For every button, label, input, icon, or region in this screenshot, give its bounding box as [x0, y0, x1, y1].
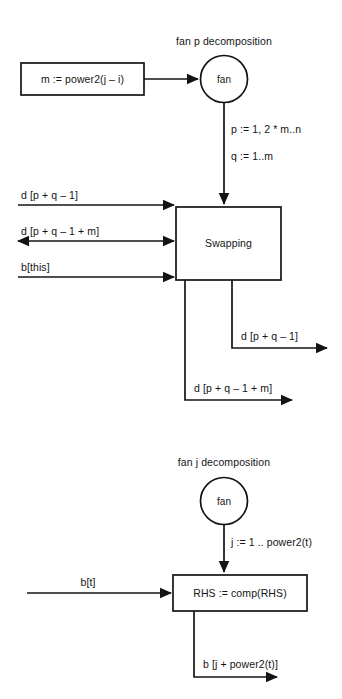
edge-label-input-d-pq1: d [p + q – 1]: [21, 190, 78, 201]
edge-label-input-d-pq1m: d [p + q – 1 + m]: [21, 226, 99, 237]
rhs-box-label: RHS := comp(RHS): [193, 588, 287, 599]
section-title-fan-p: fan p decomposition: [176, 36, 272, 47]
fan-circle-j-label: fan: [217, 497, 231, 507]
edge-label-p-range: p := 1, 2 * m..n: [231, 124, 301, 135]
edge-label-output-b-jpower2t: b [j + power2(t)]: [203, 659, 278, 670]
edge-label-output-d-pq1: d [p + q – 1]: [241, 331, 298, 342]
edge-label-input-bthis: b[this]: [21, 262, 50, 273]
diagram-canvas-root: fan p decomposition m := power2(j – i) f…: [0, 0, 342, 699]
diagram-vector-layer: [0, 0, 342, 699]
power2-box-label: m := power2(j – i): [41, 74, 124, 85]
swapping-box-label: Swapping: [205, 238, 252, 249]
edge-label-q-range: q := 1..m: [231, 151, 273, 162]
edge-label-input-bt: b[t]: [81, 577, 96, 588]
edge-label-j-range: j := 1 .. power2(t): [231, 537, 312, 548]
section-title-fan-j: fan j decomposition: [178, 457, 270, 468]
fan-circle-p-label: fan: [217, 75, 231, 85]
edge-label-output-d-pq1m: d [p + q – 1 + m]: [194, 383, 272, 394]
